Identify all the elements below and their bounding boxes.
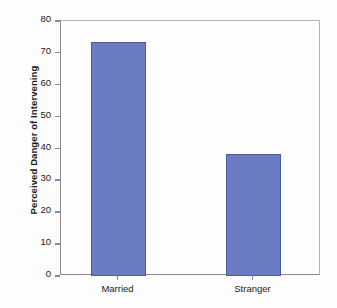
y-axis-tick-20: 20 xyxy=(0,211,60,212)
bar-married xyxy=(91,42,146,276)
x-axis-label-married: Married xyxy=(68,283,168,294)
y-axis-tick-60: 60 xyxy=(0,84,60,85)
y-axis-tick-label: 20 xyxy=(40,204,51,215)
y-axis-tick-10: 10 xyxy=(0,243,60,244)
y-axis-tick-label: 60 xyxy=(40,77,51,88)
y-axis-tick-mark xyxy=(55,275,60,277)
bar-stranger xyxy=(226,154,281,276)
y-axis-tick-70: 70 xyxy=(0,52,60,53)
x-axis-tick-mark xyxy=(117,275,119,280)
y-axis-tick-label: 80 xyxy=(40,13,51,24)
y-axis-tick-label: 10 xyxy=(40,236,51,247)
x-axis-tick-mark xyxy=(252,275,254,280)
y-axis-tick-label: 40 xyxy=(40,141,51,152)
y-axis-tick-50: 50 xyxy=(0,116,60,117)
y-axis-tick-label: 0 xyxy=(46,268,51,279)
bar-chart: Perceived Danger of Intervening 01020304… xyxy=(0,0,337,308)
y-axis-tick-label: 70 xyxy=(40,45,51,56)
x-axis-label-stranger: Stranger xyxy=(203,283,303,294)
y-axis-tick-0: 0 xyxy=(0,275,60,276)
y-axis-tick-80: 80 xyxy=(0,20,60,21)
plot-area xyxy=(60,20,320,275)
y-axis-tick-label: 50 xyxy=(40,109,51,120)
y-axis-tick-40: 40 xyxy=(0,148,60,149)
y-axis-tick-30: 30 xyxy=(0,179,60,180)
y-axis-tick-label: 30 xyxy=(40,172,51,183)
